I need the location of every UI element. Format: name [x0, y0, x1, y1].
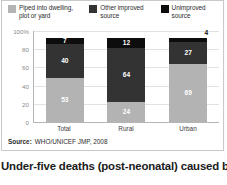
bar-segment-value: 27 — [184, 50, 191, 57]
bar-segment-other-improved: 27 — [169, 42, 207, 65]
x-axis-tick-total: Total — [45, 125, 83, 135]
legend-item-label: Unimproved source — [172, 4, 220, 19]
bar-group-container: 7 40 53 12 64 — [34, 31, 219, 122]
legend-item-piped-into-dwelling: Piped into dwelling, plot or yard — [8, 4, 83, 19]
bar-segment-other-improved: 64 — [107, 48, 145, 102]
figure-caption: Under-five deaths (post-neonatal) caused… — [1, 160, 224, 172]
y-axis-tick: 0 — [26, 119, 29, 126]
x-axis: Total Rural Urban — [33, 125, 219, 135]
bar-segment-piped: 24 — [107, 102, 145, 122]
bar-column-rural: 12 64 24 — [107, 31, 145, 122]
y-axis-tick: 40 — [22, 82, 29, 89]
bar-segment-unimproved: 12 — [107, 38, 145, 48]
source-text: WHO/UNICEF JMP, 2008 — [35, 138, 108, 145]
chart-panel: Piped into dwelling, plot or yard Other … — [1, 0, 224, 151]
plot-wrapper: 100% 80 60 40 20 0 7 40 — [6, 31, 221, 135]
bar-segment-value: 40 — [61, 58, 68, 65]
y-axis-tick: 100% — [13, 28, 29, 35]
legend-swatch-icon — [161, 5, 169, 13]
legend-item-label: Piped into dwelling, plot or yard — [19, 4, 83, 19]
legend-item-label: Other improved source — [100, 4, 154, 19]
bar-segment-other-improved: 40 — [46, 44, 84, 77]
bar-segment-value: 64 — [123, 72, 130, 79]
chart-legend: Piped into dwelling, plot or yard Other … — [8, 4, 220, 28]
legend-item-other-improved-source: Other improved source — [89, 4, 154, 19]
legend-item-unimproved-source: Unimproved source — [161, 4, 220, 19]
y-axis-tick: 60 — [22, 64, 29, 71]
x-axis-tick-urban: Urban — [169, 125, 207, 135]
bar-column-total: 7 40 53 — [46, 31, 84, 122]
y-axis: 100% 80 60 40 20 0 — [6, 31, 31, 123]
plot-area: 7 40 53 12 64 — [33, 31, 219, 123]
source-label: Source: — [8, 138, 32, 145]
bar-segment-value: 12 — [123, 40, 130, 47]
bar-segment-value: 4 — [204, 30, 208, 37]
bar-segment-value: 69 — [184, 90, 191, 97]
bar-segment-piped: 53 — [46, 78, 84, 122]
source-note: Source:WHO/UNICEF JMP, 2008 — [8, 138, 107, 145]
legend-swatch-icon — [89, 5, 97, 13]
bar-segment-value: 24 — [123, 109, 130, 116]
bar-column-urban: 4 27 69 — [169, 31, 207, 122]
legend-swatch-icon — [8, 5, 16, 13]
bar-segment-value: 53 — [61, 97, 68, 104]
y-axis-tick: 80 — [22, 46, 29, 53]
bar-segment-piped: 69 — [169, 64, 207, 122]
x-axis-tick-rural: Rural — [107, 125, 145, 135]
y-axis-tick: 20 — [22, 100, 29, 107]
